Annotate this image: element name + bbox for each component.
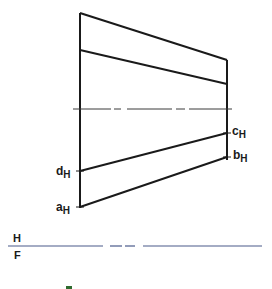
top-edge (80, 13, 227, 60)
inner-top-edge (80, 50, 227, 84)
label-c: cH (232, 125, 246, 140)
label-a: aH (56, 201, 70, 216)
label-b: bH (233, 149, 248, 164)
projection-drawing (0, 0, 272, 289)
label-d: dH (56, 165, 71, 180)
fold-label-upper: H (13, 233, 21, 244)
fold-label-lower: F (14, 250, 21, 261)
